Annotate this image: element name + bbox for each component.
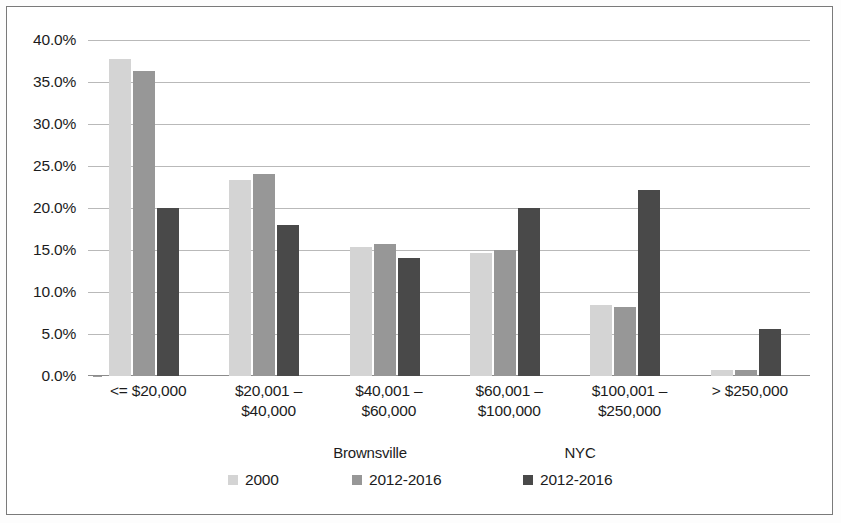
legend-swatch-icon xyxy=(523,475,533,485)
bar-group xyxy=(569,40,689,376)
bar[interactable] xyxy=(374,244,396,376)
y-axis: 40.0%35.0%30.0%25.0%20.0%15.0%10.0%5.0%0… xyxy=(14,40,76,376)
legend-label: 2012-2016 xyxy=(540,471,612,489)
bar-group xyxy=(329,40,449,376)
bar-group xyxy=(449,40,569,376)
x-tick-label: $100,001 – $250,000 xyxy=(569,381,689,421)
bar[interactable] xyxy=(133,71,155,376)
legend-entry[interactable]: 2012-2016 xyxy=(523,471,612,489)
bar-group xyxy=(690,40,810,376)
x-axis-category-labels: <= $20,000$20,001 – $40,000$40,001 – $60… xyxy=(88,381,810,425)
legend-group-title: Brownsville xyxy=(300,444,440,461)
y-tick-label: 35.0% xyxy=(33,73,76,91)
y-tick-label: 30.0% xyxy=(33,115,76,133)
y-tick-label: 0.0% xyxy=(41,367,76,385)
legend-entry[interactable]: 2012-2016 xyxy=(352,471,441,489)
legend-label: 2012-2016 xyxy=(369,471,441,489)
legend-group-title: NYC xyxy=(525,444,635,461)
x-tick-label: $20,001 – $40,000 xyxy=(208,381,328,421)
bar-group xyxy=(88,40,208,376)
bar[interactable] xyxy=(518,208,540,376)
bar[interactable] xyxy=(711,370,733,376)
legend-swatch-icon xyxy=(352,475,362,485)
chart-legend: 20002012-20162012-2016BrownsvilleNYC xyxy=(0,444,841,504)
y-tick-label: 15.0% xyxy=(33,241,76,259)
bar[interactable] xyxy=(398,258,420,376)
bar[interactable] xyxy=(759,329,781,376)
legend-swatch-icon xyxy=(228,475,238,485)
bar-group xyxy=(208,40,328,376)
x-tick-label: $60,001 – $100,000 xyxy=(449,381,569,421)
y-tick-label: 5.0% xyxy=(41,325,76,343)
bar[interactable] xyxy=(229,180,251,376)
plot-area xyxy=(88,40,810,376)
y-tick-label: 25.0% xyxy=(33,157,76,175)
bar[interactable] xyxy=(253,174,275,376)
bar[interactable] xyxy=(614,307,636,376)
bar[interactable] xyxy=(494,250,516,376)
bar[interactable] xyxy=(109,59,131,376)
legend-entry[interactable]: 2000 xyxy=(228,471,279,489)
bar[interactable] xyxy=(157,208,179,376)
y-tick-label: 20.0% xyxy=(33,199,76,217)
x-tick-label: $40,001 – $60,000 xyxy=(329,381,449,421)
legend-label: 2000 xyxy=(245,471,279,489)
bar[interactable] xyxy=(470,253,492,376)
y-tick-label: 40.0% xyxy=(33,31,76,49)
bar[interactable] xyxy=(590,305,612,376)
bar[interactable] xyxy=(638,190,660,376)
bar[interactable] xyxy=(735,370,757,376)
x-tick-label: <= $20,000 xyxy=(88,381,208,401)
bar[interactable] xyxy=(277,225,299,376)
y-tick-mark xyxy=(93,376,102,377)
x-tick-label: > $250,000 xyxy=(690,381,810,401)
bar-chart-figure: 40.0%35.0%30.0%25.0%20.0%15.0%10.0%5.0%0… xyxy=(0,0,841,523)
y-tick-label: 10.0% xyxy=(33,283,76,301)
bar[interactable] xyxy=(350,247,372,376)
